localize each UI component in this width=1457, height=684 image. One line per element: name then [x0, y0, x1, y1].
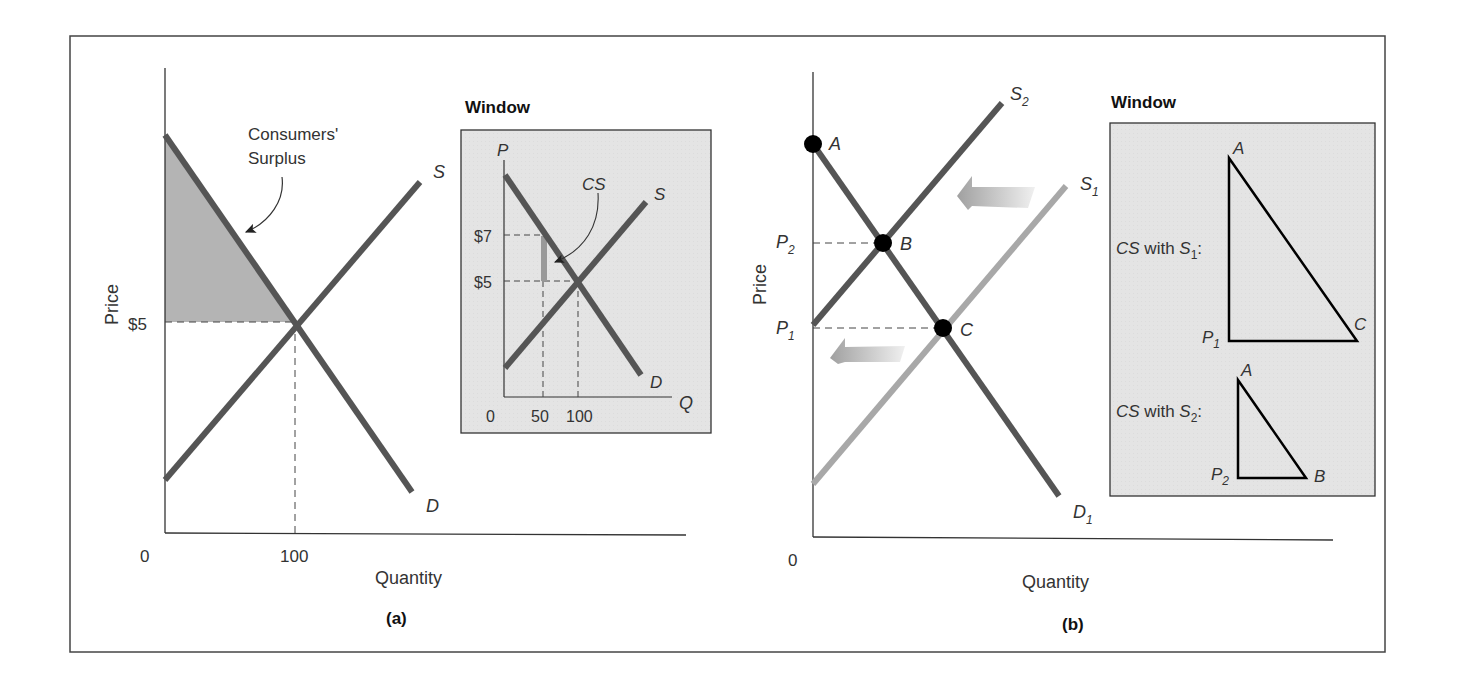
point-b-label: B	[900, 234, 912, 254]
panel-b: A B C S2 S1 D1 P2 P1 0 Price Quantity (b…	[750, 72, 1375, 634]
panel-a: S D Consumers' Surplus $5 0 100 Price Qu…	[102, 68, 711, 628]
inset-q-label: Q	[679, 393, 693, 413]
x-axis	[165, 533, 686, 535]
cs-annotation-line2: Surplus	[248, 149, 306, 168]
x-tick-0: 0	[140, 547, 149, 566]
supply-label: S	[433, 162, 445, 182]
tri1-vertex-c: C	[1354, 315, 1367, 334]
inset-x-tick-50: 50	[531, 408, 549, 425]
x-axis-b	[813, 537, 1333, 540]
inset-supply-label: S	[654, 185, 666, 204]
panel-label-a: (a)	[386, 609, 407, 628]
s1-label: S1	[1080, 174, 1099, 199]
shift-arrow-lower	[830, 338, 905, 364]
y-tick-5: $5	[128, 315, 147, 334]
p2-tick: P2	[776, 232, 795, 257]
inset-x-tick-100: 100	[566, 408, 593, 425]
point-c	[934, 319, 952, 337]
inset-x-tick-0: 0	[486, 408, 495, 425]
inset-cs-bar	[541, 236, 547, 281]
s2-label: S2	[1010, 84, 1029, 109]
point-a	[804, 135, 822, 153]
x-axis-title: Quantity	[375, 568, 442, 588]
window-inset-b: Window CS with S1: A P1 C CS with S2: A …	[1110, 93, 1375, 496]
cs-pointer-arrow	[246, 177, 282, 232]
y-axis-title: Price	[102, 284, 122, 325]
x-axis-title-b: Quantity	[1022, 572, 1089, 592]
inset-p-label: P	[497, 141, 509, 160]
shift-arrow-upper	[957, 176, 1035, 210]
window-title-a: Window	[465, 98, 531, 117]
inset-demand-label: D	[650, 373, 662, 392]
y-axis-title-b: Price	[750, 264, 770, 305]
tri1-vertex-a: A	[1232, 139, 1244, 158]
p1-tick: P1	[776, 318, 795, 343]
window-title-b: Window	[1111, 93, 1177, 112]
cs-annotation-line1: Consumers'	[248, 125, 338, 144]
inset-y-tick-5: $5	[474, 274, 492, 291]
inset-cs-label: CS	[582, 175, 606, 194]
inset-y-tick-7: $7	[474, 228, 492, 245]
tri2-vertex-b: B	[1314, 467, 1325, 486]
demand-label: D	[426, 496, 439, 516]
point-b	[874, 234, 892, 252]
point-c-label: C	[960, 320, 974, 340]
figure-canvas: S D Consumers' Surplus $5 0 100 Price Qu…	[0, 0, 1457, 684]
x-tick-100: 100	[280, 547, 308, 566]
d1-label: D1	[1073, 502, 1093, 527]
x-tick-0-b: 0	[788, 551, 797, 570]
tri2-vertex-a: A	[1240, 361, 1252, 380]
panel-label-b: (b)	[1062, 615, 1084, 634]
window-inset-a: Window CS P Q S D $7 $5 0 50 100	[461, 98, 711, 433]
point-a-label: A	[828, 134, 841, 154]
